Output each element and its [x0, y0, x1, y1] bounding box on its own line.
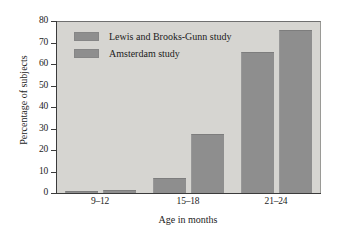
y-axis-tick	[51, 107, 56, 108]
x-axis-title: Age in months	[56, 214, 320, 225]
bar	[241, 52, 274, 193]
legend-item-label: Lewis and Brooks-Gunn study	[109, 31, 232, 42]
x-axis-tick-label: 9–12	[65, 196, 135, 207]
legend-item: Lewis and Brooks-Gunn study	[74, 29, 274, 43]
y-axis-tick	[51, 43, 56, 44]
y-axis-tick	[51, 193, 56, 194]
legend-item-label: Amsterdam study	[109, 48, 180, 59]
y-axis-tick	[51, 129, 56, 130]
x-axis-line	[56, 193, 321, 194]
bar	[103, 190, 136, 193]
y-axis-tick	[51, 21, 56, 22]
y-axis-tick	[51, 64, 56, 65]
bar	[153, 178, 186, 193]
y-axis-tick	[51, 172, 56, 173]
legend-item: Amsterdam study	[74, 46, 274, 60]
x-axis-tick-label: 21–24	[241, 196, 311, 207]
chart-legend: Lewis and Brooks-Gunn study Amsterdam st…	[74, 29, 274, 63]
x-axis-tick-label: 15–18	[153, 196, 223, 207]
bar	[65, 191, 98, 193]
bar	[279, 30, 312, 193]
y-axis-line	[56, 21, 57, 194]
y-axis-tick	[51, 86, 56, 87]
legend-swatch-icon	[74, 32, 99, 41]
y-axis-tick-label: 0	[8, 188, 48, 198]
bar-chart-figure: 80706050403020100 Percentage of subjects…	[0, 0, 344, 239]
y-axis-title: Percentage of subjects	[19, 20, 29, 180]
bar	[191, 134, 224, 193]
y-axis-tick	[51, 150, 56, 151]
legend-swatch-icon	[74, 49, 99, 58]
